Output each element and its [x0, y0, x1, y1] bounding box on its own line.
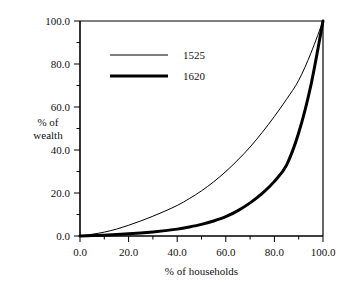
x-tick-label-100: 100.0 [311, 246, 336, 258]
y-tick-label-20: 20.0 [51, 187, 71, 199]
x-tick-label-60: 60.0 [216, 246, 236, 258]
x-tick-labels: 0.0 20.0 40.0 60.0 80.0 100.0 [73, 246, 336, 258]
x-tick-label-80: 80.0 [265, 246, 285, 258]
legend-label-1525: 1525 [183, 49, 206, 61]
y-axis-title-line1: % of [37, 116, 58, 128]
y-axis-ticks [74, 21, 80, 236]
x-tick-label-20: 20.0 [119, 246, 139, 258]
y-tick-label-40: 40.0 [51, 144, 71, 156]
y-axis-title-line2: wealth [33, 129, 63, 141]
x-tick-label-40: 40.0 [168, 246, 188, 258]
y-tick-label-80: 80.0 [51, 58, 71, 70]
x-axis-ticks [80, 236, 323, 242]
y-tick-label-0: 0.0 [56, 230, 70, 242]
x-tick-label-0: 0.0 [73, 246, 87, 258]
y-tick-label-60: 60.0 [51, 101, 71, 113]
x-axis-title: % of households [165, 265, 238, 277]
chart-figure: 0.0 20.0 40.0 60.0 80.0 100.0 0.0 20.0 4… [0, 0, 356, 287]
y-tick-label-100: 100.0 [45, 15, 70, 27]
lorenz-curve-chart: 0.0 20.0 40.0 60.0 80.0 100.0 0.0 20.0 4… [0, 0, 356, 287]
legend-label-1620: 1620 [183, 70, 206, 82]
